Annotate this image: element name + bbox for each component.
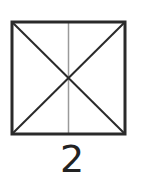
figure-label: 2	[0, 138, 144, 180]
